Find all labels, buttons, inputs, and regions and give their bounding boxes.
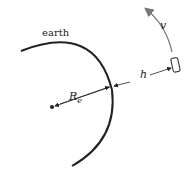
earth-label: earth (42, 27, 69, 38)
height-arrow-right (150, 68, 171, 75)
satellite-icon (171, 57, 181, 72)
earth-surface-arc (21, 42, 113, 166)
radius-label: Re (69, 90, 82, 105)
height-label: h (140, 68, 147, 81)
radius-arrow-tip (60, 87, 109, 104)
radius-label-subscript: e (77, 96, 82, 105)
velocity-label: v (160, 19, 166, 32)
earth-center-dot (50, 105, 54, 109)
velocity-arrow (146, 9, 172, 52)
diagram-canvas: earth Re h v (0, 0, 190, 176)
height-arrow (114, 82, 130, 86)
